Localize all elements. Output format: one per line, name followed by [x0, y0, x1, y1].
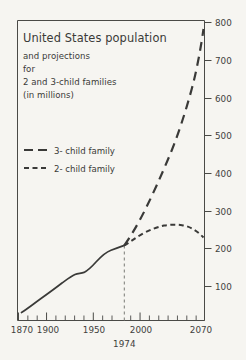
x-axis-minor-ticks: [28, 316, 196, 321]
y-axis-ticks: [205, 23, 212, 287]
population-projection-chart: 800 700 600 500 400 300 200 100: [0, 0, 246, 360]
x-label-2070: 2070: [190, 325, 213, 335]
y-label-800: 800: [215, 18, 232, 28]
series-recorded-population: [22, 245, 125, 312]
legend-label-2-child-family: 2- child family: [54, 164, 115, 174]
subtitle-line-1: and projections: [23, 51, 91, 61]
y-label-700: 700: [215, 56, 232, 66]
legend-label-3-child-family: 3- child family: [54, 146, 115, 156]
y-label-200: 200: [215, 244, 232, 254]
marker-label-1974: 1974: [113, 339, 136, 349]
x-axis-tick-labels: 1870 1900 1950 2000 2070: [11, 325, 213, 335]
x-axis-major-ticks: [19, 313, 205, 321]
chart-figure: 800 700 600 500 400 300 200 100: [0, 0, 246, 360]
y-axis-tick-labels: 800 700 600 500 400 300 200 100: [215, 18, 232, 292]
y-label-500: 500: [215, 131, 232, 141]
subtitle-line-4: (in millions): [23, 90, 74, 100]
y-label-600: 600: [215, 94, 232, 104]
page-title: United States population: [23, 31, 167, 45]
x-label-1900: 1900: [37, 325, 60, 335]
chart-legend: 3- child family 2- child family: [24, 146, 115, 174]
y-label-100: 100: [215, 282, 232, 292]
subtitle-line-3: 2 and 3-child families: [23, 77, 117, 87]
subtitle-line-2: for: [23, 64, 35, 74]
x-label-1950: 1950: [83, 325, 106, 335]
y-label-400: 400: [215, 169, 232, 179]
series-3-child-family: [124, 29, 203, 245]
y-label-300: 300: [215, 207, 232, 217]
x-label-1870: 1870: [11, 325, 34, 335]
x-label-2000: 2000: [130, 325, 153, 335]
